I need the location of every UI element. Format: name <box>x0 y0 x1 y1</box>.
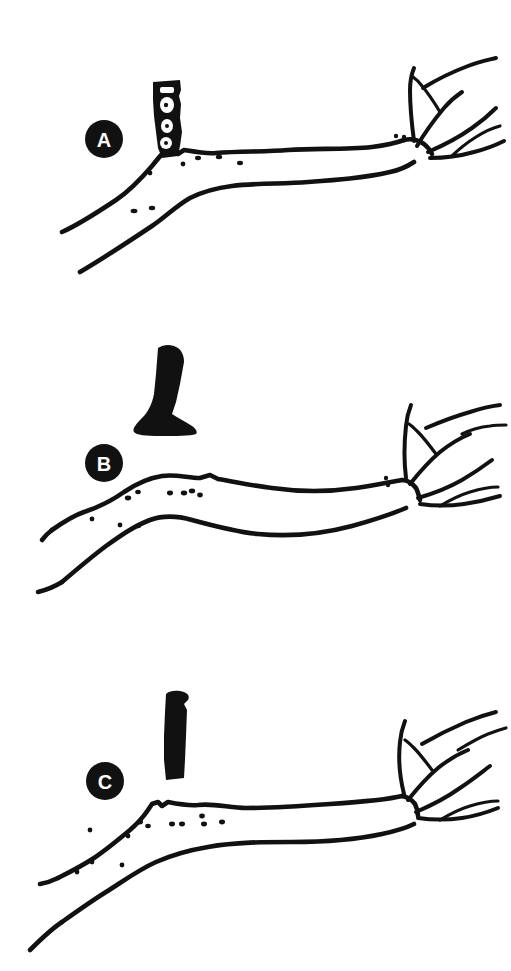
twig-3-c <box>422 712 496 744</box>
panel-label-letter-c: C <box>98 771 112 793</box>
branch-lower-outline-a <box>80 162 414 272</box>
speck-c-12 <box>120 863 125 868</box>
speck-a-8 <box>394 134 398 138</box>
speck-a-3 <box>195 156 201 160</box>
speck-c-4 <box>169 822 175 827</box>
panel-label-b: B <box>85 444 123 482</box>
branch-left-tail-b <box>38 530 62 592</box>
speck-c-2 <box>137 820 143 825</box>
speck-b-4 <box>181 491 187 496</box>
panel-a: A <box>0 0 511 330</box>
speck-b-5 <box>189 489 195 494</box>
twig-2-b <box>410 434 470 484</box>
stub-structure-a <box>153 80 182 158</box>
twig-1-c <box>399 721 405 794</box>
stub-dot-2-a <box>165 124 169 128</box>
speck-b-11 <box>386 483 390 487</box>
speck-b-7 <box>90 517 95 522</box>
twig-1-b <box>405 405 412 478</box>
panel-label-letter-b: B <box>97 453 111 475</box>
speck-c-3 <box>145 824 151 828</box>
speck-b-1 <box>125 496 131 501</box>
speck-b-2 <box>135 490 141 494</box>
speck-c-8 <box>219 820 225 825</box>
speck-a-2 <box>181 162 186 167</box>
panel-label-c: C <box>86 762 124 800</box>
speck-a-5 <box>237 161 243 165</box>
twig-2-branchlet-c <box>405 740 432 770</box>
stub-dot-3-a <box>164 141 168 145</box>
twig-3-branchlet-b <box>462 425 506 434</box>
branch-lower-outline-b <box>62 508 406 582</box>
speck-c-10 <box>90 860 95 865</box>
speck-b-10 <box>384 476 388 480</box>
speck-c-9 <box>126 834 131 839</box>
speck-b-6 <box>197 493 203 498</box>
speck-a-6 <box>131 209 138 213</box>
speck-c-7 <box>201 822 207 827</box>
twig-2-c <box>408 750 468 800</box>
figure-root: A <box>0 0 511 971</box>
speck-a-4 <box>216 155 222 159</box>
branch-lower-outline-c <box>62 824 414 922</box>
speck-a-7 <box>149 206 155 210</box>
boot-object-b <box>133 345 196 436</box>
panel-a-drawing: A <box>0 0 511 330</box>
speck-c-1 <box>88 828 93 833</box>
branch-left-tail-c <box>30 878 62 950</box>
panel-label-letter-a: A <box>97 129 111 151</box>
speck-b-9 <box>135 524 141 528</box>
twig-3-branchlet-c <box>458 728 506 750</box>
speck-b-3 <box>167 491 173 496</box>
speck-b-8 <box>118 523 123 528</box>
speck-a-1 <box>148 171 153 176</box>
branch-upper-outline-b <box>52 475 402 530</box>
speck-a-9 <box>402 135 406 139</box>
twig-4-b <box>418 460 492 498</box>
twig-2-branchlet-b <box>409 424 436 454</box>
speck-c-11 <box>75 870 80 875</box>
twig-3-a <box>423 58 496 88</box>
panel-b: B <box>0 330 511 650</box>
panel-label-a: A <box>85 120 123 158</box>
column-object-c <box>164 691 189 780</box>
twig-5-b <box>420 496 500 506</box>
panel-c-drawing: C <box>0 650 511 971</box>
stub-dot-1-a <box>164 103 168 107</box>
panel-c: C <box>0 650 511 971</box>
speck-c-6 <box>199 814 205 819</box>
stub-cell-1-a <box>160 87 174 93</box>
speck-c-5 <box>179 822 185 827</box>
panel-b-drawing: B <box>0 330 511 650</box>
